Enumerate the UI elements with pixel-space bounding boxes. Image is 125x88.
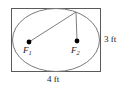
focus-point-f2 bbox=[75, 39, 80, 44]
focus-label-f2-subscript: 2 bbox=[77, 49, 80, 56]
dimension-label-height: 3 ft bbox=[104, 35, 116, 44]
focus-point-f1 bbox=[27, 40, 32, 45]
focus-label-f1: F1 bbox=[23, 46, 32, 55]
focal-radius-f2 bbox=[76, 12, 77, 41]
ellipse-shape bbox=[13, 9, 100, 72]
geometry-figure: F1 F2 3 ft 4 ft bbox=[0, 0, 125, 88]
focus-label-f2-letter: F bbox=[71, 45, 77, 55]
focus-label-f2: F2 bbox=[71, 46, 80, 55]
focal-radius-f1 bbox=[29, 12, 76, 42]
ellipse-in-rectangle-drawing bbox=[0, 0, 125, 88]
dimension-label-width: 4 ft bbox=[47, 75, 59, 84]
focus-label-f1-letter: F bbox=[23, 45, 29, 55]
focus-label-f1-subscript: 1 bbox=[29, 49, 32, 56]
